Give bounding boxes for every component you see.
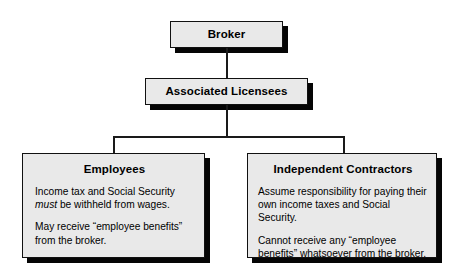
node-employees-title: Employees [35,161,194,177]
node-employees-paragraph-1: Income tax and Social Security must be w… [35,185,194,211]
node-independent-contractors-title: Independent Contractors [258,161,428,177]
org-chart-diagram: Broker Associated Licensees Employees In… [0,0,465,280]
node-independent-contractors-paragraph-1: Assume responsibility for paying their o… [258,185,428,225]
node-employees[interactable]: Employees Income tax and Social Security… [22,153,205,258]
connector-to-employees [113,136,115,154]
connector-to-independent-contractors [343,136,345,154]
node-independent-contractors[interactable]: Independent Contractors Assume responsib… [247,153,437,258]
connector-broker-to-licensees [226,48,228,78]
node-independent-contractors-paragraph-2: Cannot receive any “employee benefits” w… [258,234,428,260]
node-associated-licensees[interactable]: Associated Licensees [145,78,308,105]
node-employees-p1-emphasis: must [35,199,57,210]
node-employees-paragraph-2: May receive “employee benefits” from the… [35,220,194,246]
connector-split-bar [113,136,345,138]
node-broker[interactable]: Broker [170,21,283,48]
node-employees-p1-text-after: be withheld from wages. [57,199,170,210]
node-employees-body: Income tax and Social Security must be w… [35,185,194,247]
node-independent-contractors-body: Assume responsibility for paying their o… [258,185,428,260]
node-employees-p1-text-before: Income tax and Social Security [35,186,175,197]
connector-licensees-stem [226,105,228,137]
node-associated-licensees-title: Associated Licensees [146,79,307,103]
node-broker-title: Broker [171,22,282,46]
